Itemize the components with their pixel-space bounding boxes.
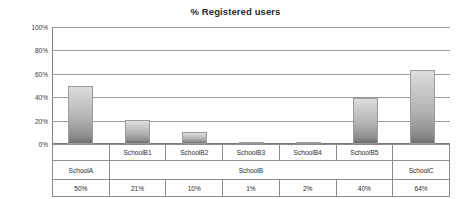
gridline-80 (52, 50, 450, 51)
gridline-100 (52, 27, 450, 28)
gridline-20 (52, 121, 450, 122)
cell-sub-schoolb3: SchoolB3 (223, 145, 280, 161)
table-row-values: 50% 21% 10% 1% 2% 40% 64% (53, 180, 450, 197)
cell-group-schoolb: SchoolB (109, 161, 393, 180)
y-tick-label-80: 80% (14, 47, 48, 54)
plot-area (52, 27, 450, 144)
y-tick-label-40: 40% (14, 94, 48, 101)
cell-value-schoolc: 64% (393, 180, 450, 197)
bar-schoolb5 (353, 98, 378, 144)
cell-group-schoola: SchoolA (53, 161, 110, 180)
cell-sub-schoolb4: SchoolB4 (279, 145, 336, 161)
chart-title: % Registered users (0, 6, 471, 17)
table-row-groups: SchoolA SchoolB SchoolC (53, 161, 450, 180)
y-tick-label-20: 20% (14, 117, 48, 124)
bar-schoola (68, 86, 93, 144)
bar-schoolc (410, 70, 435, 144)
y-tick-label-0: 0% (14, 141, 48, 148)
y-axis-labels: 100% 80% 60% 40% 20% 0% (10, 0, 48, 199)
y-tick-label-60: 60% (14, 70, 48, 77)
cell-sub-schoolb1: SchoolB1 (109, 145, 166, 161)
gridline-60 (52, 74, 450, 75)
bar-schoolb2 (182, 132, 207, 144)
cell-value-schoolb1: 21% (109, 180, 166, 197)
cell-value-schoolb3: 1% (223, 180, 280, 197)
gridline-40 (52, 97, 450, 98)
category-label-table: SchoolB1 SchoolB2 SchoolB3 SchoolB4 Scho… (52, 144, 450, 197)
cell-sub-schoola (53, 145, 110, 161)
y-tick-label-100: 100% (14, 24, 48, 31)
cell-sub-schoolb2: SchoolB2 (166, 145, 223, 161)
table-row-subcategories: SchoolB1 SchoolB2 SchoolB3 SchoolB4 Scho… (53, 145, 450, 161)
cell-sub-schoolc (393, 145, 450, 161)
cell-sub-schoolb5: SchoolB5 (336, 145, 393, 161)
cell-group-schoolc: SchoolC (393, 161, 450, 180)
cell-value-schoolb5: 40% (336, 180, 393, 197)
cell-value-schoola: 50% (53, 180, 110, 197)
chart-container: % Registered users 100% 80% 60% 40% 20% … (0, 0, 471, 199)
cell-value-schoolb4: 2% (279, 180, 336, 197)
bar-schoolb1 (125, 120, 150, 144)
cell-value-schoolb2: 10% (166, 180, 223, 197)
